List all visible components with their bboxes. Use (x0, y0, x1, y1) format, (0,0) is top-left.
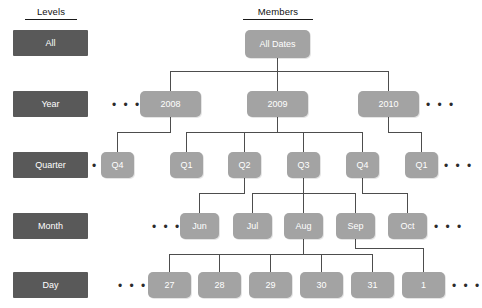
node-all-dates[interactable]: All Dates (245, 30, 310, 58)
node-label: 27 (164, 280, 174, 290)
connector-2009-down (277, 117, 278, 132)
connector-day31-up (372, 254, 373, 272)
connector-q2-bus (199, 193, 245, 194)
connector-year-bus (170, 71, 388, 72)
hierarchy-diagram: Levels Members All Year Quarter Month Da… (0, 0, 482, 308)
node-label: 31 (367, 280, 377, 290)
connector-day27-up (169, 254, 170, 272)
node-label: Q4 (111, 160, 123, 170)
month-trailing-ellipsis: • • • (434, 221, 463, 233)
node-month-oct[interactable]: Oct (388, 213, 427, 239)
node-month-jul[interactable]: Jul (233, 213, 272, 239)
connector-jul-up (252, 193, 253, 213)
connector-day1-up (423, 248, 424, 272)
connector-q3-2009-up (303, 132, 304, 152)
node-day-29[interactable]: 29 (249, 272, 292, 298)
node-label: Jun (192, 221, 207, 231)
day-trailing-ellipsis: • • • (452, 280, 481, 292)
node-label: 2008 (160, 99, 180, 109)
node-month-jun[interactable]: Jun (180, 213, 219, 239)
year-trailing-ellipsis: • • • (426, 99, 455, 111)
connector-aug-up (303, 193, 304, 213)
node-label: Q3 (297, 160, 309, 170)
level-label: All (45, 38, 55, 48)
level-box-year[interactable]: Year (13, 91, 88, 117)
node-label: 28 (214, 280, 224, 290)
node-label: 2010 (378, 99, 398, 109)
node-year-2010[interactable]: 2010 (358, 91, 419, 117)
node-label: Jul (247, 221, 259, 231)
level-box-all[interactable]: All (13, 30, 88, 56)
connector-2008-bus (117, 132, 171, 133)
node-label: Sep (347, 221, 363, 231)
connector-2008-down (170, 117, 171, 132)
level-label: Month (38, 221, 63, 231)
node-label: Q1 (180, 160, 192, 170)
connector-q4-2009-bus (362, 193, 407, 194)
connector-aug-down (303, 239, 304, 254)
node-label: 1 (421, 280, 426, 290)
node-day-28[interactable]: 28 (198, 272, 241, 298)
node-quarter-q1-2009[interactable]: Q1 (170, 152, 203, 178)
day-leading-ellipsis: • • • (118, 280, 147, 292)
node-month-sep[interactable]: Sep (336, 213, 375, 239)
connector-q2-down (244, 178, 245, 193)
connector-jun-up (199, 193, 200, 213)
levels-header-underline (25, 19, 77, 20)
level-box-day[interactable]: Day (13, 272, 88, 298)
level-label: Year (41, 99, 59, 109)
connector-day28-up (219, 254, 220, 272)
connector-year-2009-up (277, 71, 278, 91)
node-month-aug[interactable]: Aug (284, 213, 323, 239)
connector-q4-2009-down (362, 178, 363, 193)
levels-column-header: Levels (25, 6, 77, 17)
level-box-month[interactable]: Month (13, 213, 88, 239)
connector-2010-down (388, 117, 389, 132)
members-header-label: Members (258, 6, 298, 17)
members-header-underline (243, 19, 313, 20)
members-column-header: Members (243, 6, 313, 17)
node-label: Q2 (238, 160, 250, 170)
node-year-2008[interactable]: 2008 (140, 91, 201, 117)
level-box-quarter[interactable]: Quarter (13, 152, 88, 178)
connector-alldates-down (277, 58, 278, 71)
connector-q1-2010-up (421, 132, 422, 152)
node-label: 2009 (267, 99, 287, 109)
connector-2009-bus (186, 132, 362, 133)
connector-sep-down (355, 239, 356, 248)
node-day-31[interactable]: 31 (351, 272, 394, 298)
connector-q1-2009-up (186, 132, 187, 152)
level-label: Quarter (35, 160, 66, 170)
node-day-30[interactable]: 30 (300, 272, 343, 298)
connector-sep-up (355, 193, 356, 213)
connector-q3-down (303, 178, 304, 193)
node-quarter-q1-2010[interactable]: Q1 (405, 152, 438, 178)
node-label: 30 (316, 280, 326, 290)
node-label: Q1 (415, 160, 427, 170)
connector-sep-bus (355, 248, 423, 249)
node-year-2009[interactable]: 2009 (247, 91, 308, 117)
connector-year-2010-up (388, 71, 389, 91)
node-quarter-q4-2009[interactable]: Q4 (346, 152, 379, 178)
levels-header-label: Levels (37, 6, 65, 17)
node-label: Aug (295, 221, 311, 231)
node-quarter-q4-2008[interactable]: Q4 (101, 152, 134, 178)
connector-oct-up (407, 193, 408, 213)
node-label: Q4 (356, 160, 368, 170)
connector-2010-bus (388, 132, 421, 133)
connector-day30-up (321, 254, 322, 272)
node-quarter-q2-2009[interactable]: Q2 (228, 152, 261, 178)
month-leading-ellipsis: • • • (152, 221, 181, 233)
level-label: Day (42, 280, 58, 290)
year-leading-ellipsis: • • • (112, 99, 141, 111)
node-label: Oct (400, 221, 414, 231)
connector-day29-up (270, 254, 271, 272)
connector-q2-2009-up (244, 132, 245, 152)
connector-year-2008-up (170, 71, 171, 91)
node-day-1[interactable]: 1 (402, 272, 445, 298)
node-label: 29 (265, 280, 275, 290)
quarter-trailing-ellipsis: • • • (444, 160, 473, 172)
node-label: All Dates (259, 39, 295, 49)
node-day-27[interactable]: 27 (148, 272, 191, 298)
node-quarter-q3-2009[interactable]: Q3 (287, 152, 320, 178)
